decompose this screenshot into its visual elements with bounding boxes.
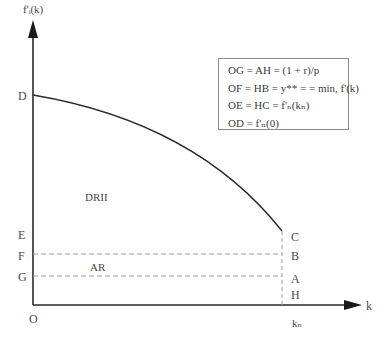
- x-axis-label: k: [366, 300, 372, 312]
- origin-label: O: [29, 313, 38, 325]
- legend-line-og: OG = AH = (1 + r)/p: [228, 62, 348, 80]
- legend-line-of: OF = HB = y** = = min, f'(k): [228, 80, 348, 98]
- kn-tick-label: kₙ: [292, 318, 302, 329]
- legend-line-od: OD = f'ₙ(0): [228, 115, 348, 133]
- label-b: B: [291, 250, 299, 262]
- legend-box: OG = AH = (1 + r)/p OF = HB = y** = = mi…: [218, 58, 349, 130]
- legend-line-oe: OE = HC = f'ₙ(kₙ): [228, 97, 348, 115]
- label-e: E: [18, 229, 25, 241]
- y-axis-label: f'ᵢ(k): [23, 4, 43, 15]
- label-c: C: [291, 231, 299, 243]
- label-f: F: [18, 250, 25, 262]
- diagram-canvas: [0, 0, 386, 339]
- y-axis-arrowhead-icon: [28, 20, 38, 38]
- region-label-drii: DRII: [85, 192, 108, 203]
- region-label-ar: AR: [90, 262, 105, 273]
- label-d: D: [18, 90, 27, 102]
- x-axis-arrowhead-icon: [344, 300, 362, 310]
- label-g: G: [18, 271, 27, 283]
- label-h: H: [291, 289, 300, 301]
- label-a: A: [291, 273, 300, 285]
